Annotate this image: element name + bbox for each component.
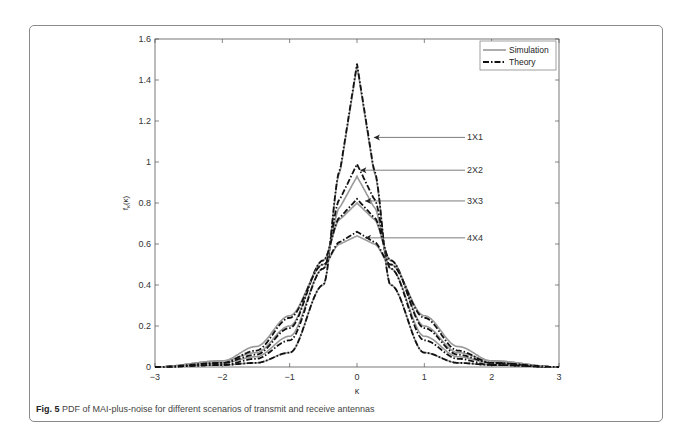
annotation-label: 1X1 [467, 132, 483, 142]
legend-theory: Theory [509, 57, 536, 67]
y-tick-label: 0 [146, 362, 151, 372]
y-tick-label: 1.4 [138, 75, 151, 85]
series-4x4-simulation [155, 236, 559, 367]
series-3x3-simulation [155, 203, 559, 367]
series-2x2-theory [155, 164, 559, 367]
x-tick-label: −1 [285, 372, 295, 382]
x-tick-label: −3 [150, 372, 160, 382]
legend-simulation: Simulation [509, 45, 549, 55]
y-tick-label: 0.4 [138, 280, 151, 290]
x-tick-label: 2 [489, 372, 494, 382]
figure-caption: Fig. 5 PDF of MAI-plus-noise for differe… [36, 404, 375, 414]
pdf-chart: −3−2−1012300.20.40.60.811.21.41.6κfκ(κ) … [0, 0, 686, 438]
y-tick-label: 1.2 [138, 116, 151, 126]
series-3x3-theory [155, 199, 559, 367]
series-1x1-simulation [155, 66, 559, 367]
annotation-label: 3X3 [467, 196, 483, 206]
figure-label: Fig. 5 [36, 404, 60, 414]
caption-text: PDF of MAI-plus-noise for different scen… [62, 404, 374, 414]
legend: SimulationTheory [480, 41, 556, 70]
y-tick-label: 1 [146, 157, 151, 167]
series-2x2-simulation [155, 176, 559, 367]
x-tick-label: 1 [422, 372, 427, 382]
y-tick-label: 0.2 [138, 321, 151, 331]
y-tick-label: 1.6 [138, 34, 151, 44]
y-tick-label: 0.6 [138, 239, 151, 249]
x-axis-label: κ [355, 386, 360, 396]
y-tick-label: 0.8 [138, 198, 151, 208]
x-tick-label: −2 [217, 372, 227, 382]
series-1x1-theory [155, 64, 559, 367]
curves [155, 64, 559, 367]
series-4x4-theory [155, 232, 559, 367]
x-tick-label: 3 [556, 372, 561, 382]
x-tick-label: 0 [354, 372, 359, 382]
annotation-label: 2X2 [467, 165, 483, 175]
y-axis-label: fκ(κ) [121, 195, 131, 210]
annotation-label: 4X4 [467, 233, 483, 243]
